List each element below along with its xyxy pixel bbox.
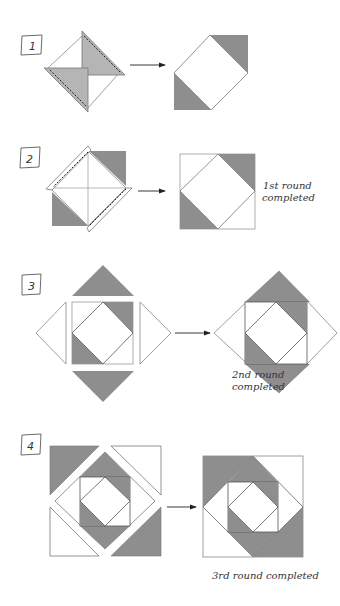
step-number-box: 3 (22, 274, 41, 295)
svg-text:3: 3 (28, 280, 35, 293)
svg-text:4: 4 (27, 440, 34, 453)
svg-text:1: 1 (29, 40, 36, 53)
caption-2nd-round: 2nd round (231, 369, 284, 380)
step-4-result (203, 456, 303, 557)
step-2-result (180, 154, 255, 229)
step-number-box: 1 (21, 35, 42, 55)
caption-completed: completed (262, 192, 315, 203)
step-4: 4 3rd round complet (21, 434, 319, 581)
step-3-pieces (36, 265, 171, 402)
step-number-box: 2 (20, 147, 40, 168)
caption-1st-round: 1st round (263, 180, 312, 191)
step-number-box: 4 (21, 434, 41, 455)
step-4-pieces (50, 446, 161, 556)
step-1: 1 (21, 31, 248, 112)
step-2-pieces (46, 146, 132, 232)
svg-text:2: 2 (26, 153, 33, 166)
caption-3rd-round: 3rd round completed (212, 570, 319, 581)
step-1-result (174, 35, 248, 110)
step-3: 3 2nd round completed (22, 265, 337, 402)
diagram-canvas: 1 2 (0, 0, 340, 606)
step-1-pieces (44, 31, 125, 112)
caption-completed: completed (232, 381, 285, 392)
step-2: 2 1st round completed (20, 146, 315, 232)
